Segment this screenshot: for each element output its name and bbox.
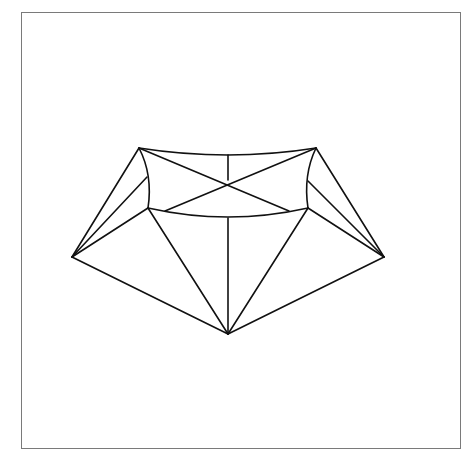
diagonal-b-to-left [165, 148, 316, 211]
diagonal-a-to-right [139, 148, 289, 211]
right-side-curve [307, 148, 316, 208]
edge-a-e [72, 148, 139, 257]
edge-f-g [228, 257, 384, 334]
edge-l-e [72, 177, 147, 257]
polyhedron-diagram [0, 0, 470, 451]
edge-b-f [316, 148, 384, 257]
left-side-curve [139, 148, 149, 208]
edge-r-f [308, 181, 384, 257]
edge-d-f [308, 208, 384, 257]
edge-e-g [72, 257, 228, 334]
top-arc [139, 148, 316, 155]
